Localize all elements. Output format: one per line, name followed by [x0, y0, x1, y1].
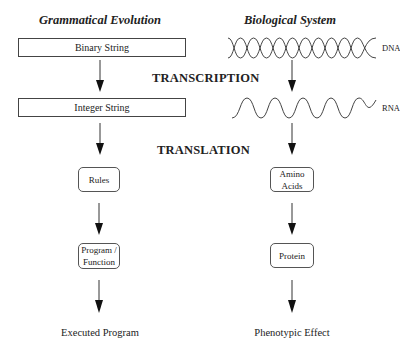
- function-label: Function: [83, 256, 115, 268]
- dna-label: DNA: [382, 43, 400, 53]
- binary-string-label: Binary String: [75, 42, 129, 53]
- acids-label: Acids: [282, 180, 303, 192]
- program-label: Program /: [81, 244, 117, 256]
- translation-label: TRANSLATION: [157, 143, 250, 158]
- executed-program-label: Executed Program: [40, 327, 160, 338]
- arrow-down-icon: [286, 280, 298, 314]
- phenotypic-effect-label: Phenotypic Effect: [232, 327, 352, 338]
- biological-system-title: Biological System: [225, 13, 355, 28]
- rules-box: Rules: [78, 167, 120, 192]
- integer-string-box: Integer String: [18, 98, 186, 117]
- grammatical-evolution-title: Grammatical Evolution: [30, 13, 170, 28]
- rules-label: Rules: [89, 174, 110, 186]
- protein-label: Protein: [279, 250, 305, 262]
- transcription-label: TRANSCRIPTION: [152, 71, 259, 86]
- arrow-down-icon: [93, 280, 105, 314]
- rna-label: RNA: [382, 103, 400, 113]
- arrow-down-icon: [94, 60, 106, 92]
- rna-strand-icon: [230, 96, 378, 120]
- arrow-down-icon: [286, 203, 298, 235]
- amino-label: Amino: [279, 168, 304, 180]
- arrow-down-icon: [94, 123, 106, 155]
- arrow-down-icon: [286, 123, 298, 155]
- dna-helix-icon: [226, 36, 378, 60]
- program-function-box: Program / Function: [78, 243, 120, 269]
- arrow-down-icon: [286, 60, 298, 92]
- arrow-down-icon: [93, 203, 105, 235]
- protein-box: Protein: [270, 243, 314, 268]
- binary-string-box: Binary String: [18, 38, 186, 57]
- integer-string-label: Integer String: [74, 102, 129, 113]
- amino-acids-box: Amino Acids: [270, 167, 314, 192]
